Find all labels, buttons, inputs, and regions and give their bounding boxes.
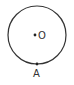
point-label-a: A (33, 68, 40, 79)
point-a (36, 63, 39, 66)
geometry-diagram: O A (0, 0, 74, 85)
circle (8, 6, 66, 64)
center-point-o (34, 34, 37, 37)
point-label-o: O (38, 30, 46, 41)
